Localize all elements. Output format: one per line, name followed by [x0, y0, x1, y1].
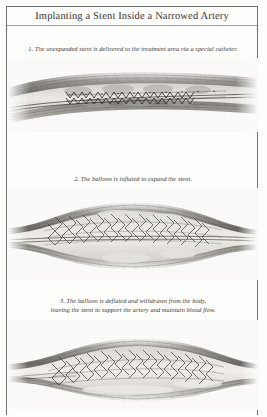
- title-band: Implanting a Stent Inside a Narrowed Art…: [7, 7, 257, 25]
- title-divider-rule: [7, 25, 257, 26]
- step-1-figure: [8, 58, 258, 132]
- step-1: 1. The unexpanded stent is delivered to …: [8, 44, 258, 132]
- step-3-caption-line-2: leaving the stent to support the artery …: [8, 305, 258, 314]
- document-page: Implanting a Stent Inside a Narrowed Art…: [0, 0, 267, 417]
- page-title: Implanting a Stent Inside a Narrowed Art…: [35, 11, 229, 22]
- step-3-caption-l1: 3. The balloon is deflated and withdrawn…: [60, 297, 206, 304]
- artery-with-unexpanded-stent-illustration: [8, 58, 258, 132]
- artery-with-inflated-balloon-illustration: [8, 188, 258, 280]
- step-3: 3. The balloon is deflated and withdrawn…: [8, 296, 258, 410]
- step-3-caption-line-1: 3. The balloon is deflated and withdrawn…: [8, 296, 258, 305]
- step-2-caption: 2. The balloon is inflated to expand the…: [8, 174, 258, 183]
- step-2: 2. The balloon is inflated to expand the…: [8, 174, 258, 280]
- step-1-caption: 1. The unexpanded stent is delivered to …: [8, 44, 258, 53]
- step-3-figure: [8, 320, 258, 410]
- artery-with-deployed-stent-illustration: [8, 320, 258, 410]
- step-2-figure: [8, 188, 258, 280]
